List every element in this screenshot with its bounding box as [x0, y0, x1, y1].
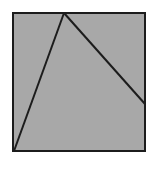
figure-container	[0, 0, 157, 174]
geometry-figure	[0, 0, 157, 174]
